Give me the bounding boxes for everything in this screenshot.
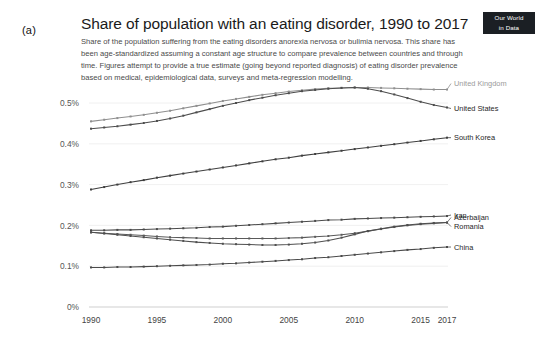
series-marker (209, 237, 211, 239)
series-marker (235, 102, 237, 104)
series-marker (116, 117, 118, 119)
series-marker (393, 217, 395, 219)
series-marker (248, 162, 250, 164)
series-marker (209, 169, 211, 171)
series-marker (143, 114, 145, 116)
series-marker (261, 94, 263, 96)
series-marker (420, 101, 422, 103)
series-marker (143, 236, 145, 238)
series-marker (446, 222, 448, 224)
series-marker (393, 226, 395, 228)
series-marker (301, 155, 303, 157)
x-axis-tick-label: 1990 (82, 315, 101, 325)
series-marker (393, 87, 395, 89)
series-marker (261, 97, 263, 99)
series-marker (169, 236, 171, 238)
series-marker (235, 237, 237, 239)
series-marker (248, 96, 250, 98)
series-marker (380, 217, 382, 219)
series-marker (301, 221, 303, 223)
series-marker (288, 222, 290, 224)
series-marker (314, 153, 316, 155)
series-marker (195, 241, 197, 243)
series-lines (90, 87, 448, 269)
series-marker (169, 228, 171, 230)
series-marker (103, 186, 105, 188)
series-marker (209, 108, 211, 110)
series-marker (90, 231, 92, 233)
series-marker (314, 88, 316, 90)
series-marker (288, 92, 290, 94)
series-marker (261, 160, 263, 162)
series-marker (235, 98, 237, 100)
series-marker (103, 233, 105, 235)
series-marker (195, 111, 197, 113)
series-marker (130, 235, 132, 237)
series-marker (433, 222, 435, 224)
series-marker (103, 232, 105, 234)
badge-line-2: in Data (499, 23, 519, 33)
series-marker (156, 177, 158, 179)
y-axis-tick-label: 0.2% (60, 221, 80, 231)
series-marker (367, 230, 369, 232)
series-marker (406, 88, 408, 90)
series-marker (248, 244, 250, 246)
y-axis-tick-label: 0.4% (60, 139, 80, 149)
series-marker (288, 244, 290, 246)
series-marker (327, 87, 329, 89)
series-marker (380, 87, 382, 89)
series-marker (222, 243, 224, 245)
series-marker (275, 260, 277, 262)
series-marker (90, 266, 92, 268)
y-axis-tick-label: 0.1% (60, 261, 80, 271)
series-marker (143, 228, 145, 230)
x-axis-tick-label: 2010 (345, 315, 364, 325)
series-marker (116, 233, 118, 235)
series-marker (169, 265, 171, 267)
series-marker (156, 120, 158, 122)
series-marker (275, 94, 277, 96)
chart-subtitle: Share of the population suffering from t… (81, 36, 473, 84)
series-marker (433, 138, 435, 140)
series-marker (341, 234, 343, 236)
series-marker (301, 89, 303, 91)
series-marker (261, 223, 263, 225)
series-marker (314, 236, 316, 238)
chart-page: (a) Our World in Data Share of populatio… (0, 0, 542, 342)
series-marker (420, 248, 422, 250)
series-marker (301, 237, 303, 239)
series-marker (182, 237, 184, 239)
series-marker (367, 230, 369, 232)
series-marker (130, 124, 132, 126)
series-marker (341, 255, 343, 257)
series-line (91, 88, 447, 129)
series-marker (130, 229, 132, 231)
series-label-connector (447, 215, 451, 216)
series-marker (393, 93, 395, 95)
series-marker (156, 237, 158, 239)
series-marker (222, 105, 224, 107)
series-marker (406, 216, 408, 218)
series-marker (90, 120, 92, 122)
series-line (91, 88, 447, 122)
series-marker (420, 88, 422, 90)
series-marker (446, 215, 448, 217)
series-marker (406, 224, 408, 226)
series-marker (433, 89, 435, 91)
series-marker (169, 110, 171, 112)
series-marker (103, 126, 105, 128)
series-marker (182, 240, 184, 242)
series-marker (446, 246, 448, 248)
series-marker (209, 264, 211, 266)
series-marker (446, 222, 448, 224)
series-marker (433, 104, 435, 106)
series-marker (341, 87, 343, 89)
series-marker (406, 142, 408, 144)
series-label-china: China (454, 243, 474, 252)
series-marker (406, 97, 408, 99)
series-marker (406, 224, 408, 226)
x-axis-tick-label: 2000 (214, 315, 233, 325)
series-marker (116, 229, 118, 231)
series-marker (182, 115, 184, 117)
series-marker (367, 146, 369, 148)
